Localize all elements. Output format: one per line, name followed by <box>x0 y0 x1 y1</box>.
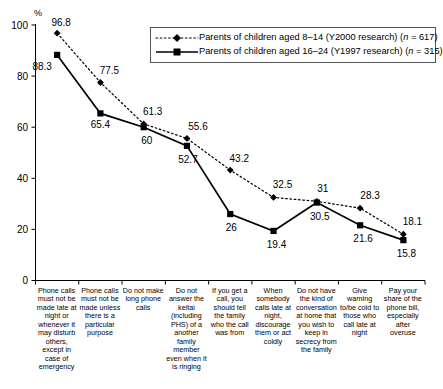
data-label-series1-5: 43.2 <box>222 154 256 164</box>
legend-row-parents-16-24: Parents of children aged 16–24 (Y1997 re… <box>155 45 431 59</box>
data-label-series1-1: 96.8 <box>44 18 78 28</box>
x-axis-category-label-8: Give warning to/be cold to those who cal… <box>339 287 380 338</box>
data-label-series1-2: 77.5 <box>92 66 126 76</box>
x-axis-category-label-4: Do not answer the keitai (including PHS)… <box>166 287 207 372</box>
legend-key-solid-square <box>155 46 199 58</box>
data-label-series2-4: 52.7 <box>171 155 205 165</box>
data-label-series2-7: 30.5 <box>303 212 337 222</box>
legend-row-parents-8-14: Parents of children aged 8–14 (Y2000 res… <box>155 31 431 45</box>
data-label-series2-3: 60 <box>130 136 164 146</box>
data-label-series2-1: 88.3 <box>25 62 59 72</box>
data-label-series1-8: 28.3 <box>353 191 387 201</box>
data-label-series2-6: 19.4 <box>260 240 294 250</box>
x-axis-category-label-9: Pay your share of the phone bill, especi… <box>382 287 423 338</box>
legend: Parents of children aged 8–14 (Y2000 res… <box>150 27 436 63</box>
legend-label-parents-16-24: Parents of children aged 16–24 (Y1997 re… <box>199 47 443 56</box>
data-label-series1-9: 18.1 <box>395 217 429 227</box>
data-label-series1-7: 31 <box>306 184 340 194</box>
legend-label-main-1: Parents of children aged 8–14 (Y2000 res… <box>199 32 403 42</box>
x-axis-category-label-7: Do not have the kind of conversation at … <box>296 287 337 355</box>
data-label-series2-9: 15.8 <box>389 249 423 259</box>
legend-label-tail-1: = 617) <box>408 32 437 42</box>
data-label-series2-5: 26 <box>214 223 248 233</box>
legend-key-dotted-diamond <box>155 32 199 44</box>
x-axis-category-label-1: Phone calls must not be made late at nig… <box>36 287 77 372</box>
legend-label-tail-2: = 315) <box>413 46 442 56</box>
x-axis-category-label-3: Do not make long phone calls <box>123 287 164 312</box>
x-axis-category-label-2: Phone calls must not be made unless ther… <box>79 287 120 338</box>
legend-label-parents-8-14: Parents of children aged 8–14 (Y2000 res… <box>199 33 438 42</box>
series-parents-16-24-markers <box>54 52 406 243</box>
data-label-series2-8: 21.6 <box>346 234 380 244</box>
data-label-series1-4: 55.6 <box>181 122 215 132</box>
x-axis-category-label-6: When somebody calls late at night, disco… <box>252 287 293 346</box>
data-label-series1-3: 61.3 <box>136 107 170 117</box>
series-parents-8-14-line <box>57 33 403 234</box>
legend-label-main-2: Parents of children aged 16–24 (Y1997 re… <box>199 46 408 56</box>
x-axis-ticks <box>36 281 426 285</box>
data-label-series2-2: 65.4 <box>83 120 117 130</box>
x-axis-category-label-5: If you get a call, you should tell the f… <box>209 287 250 338</box>
data-label-series1-6: 32.5 <box>266 180 300 190</box>
